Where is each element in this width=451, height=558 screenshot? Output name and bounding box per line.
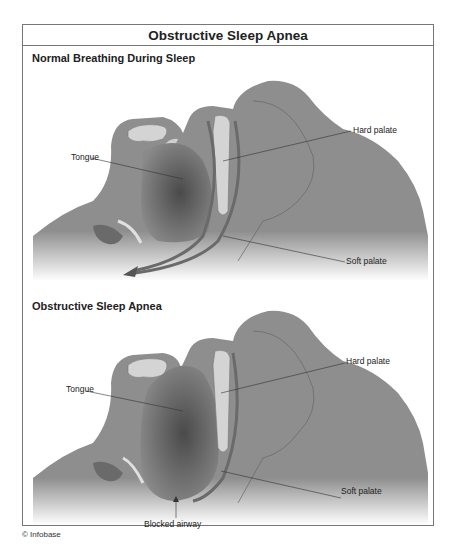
label-blocked-airway: Blocked airway	[144, 519, 201, 529]
sleep-apnea-illustration: Tongue Hard palate Soft palate Blocked a…	[23, 293, 435, 525]
head-silhouette	[33, 81, 428, 281]
tongue-region	[141, 366, 219, 501]
normal-breathing-illustration: Tongue Hard palate Soft palate	[23, 61, 435, 281]
label-soft-palate: Soft palate	[341, 486, 382, 496]
label-hard-palate: Hard palate	[353, 125, 397, 135]
label-tongue: Tongue	[71, 152, 99, 162]
diagram-frame: Obstructive Sleep Apnea Normal Breathing…	[22, 24, 434, 526]
diagram-title: Obstructive Sleep Apnea	[148, 28, 307, 43]
label-tongue: Tongue	[66, 384, 94, 394]
title-bar: Obstructive Sleep Apnea	[23, 25, 433, 46]
anatomy-normal-svg	[23, 61, 435, 281]
label-hard-palate: Hard palate	[346, 356, 390, 366]
copyright-credit: © Infobase	[22, 530, 61, 539]
label-soft-palate: Soft palate	[346, 256, 387, 266]
